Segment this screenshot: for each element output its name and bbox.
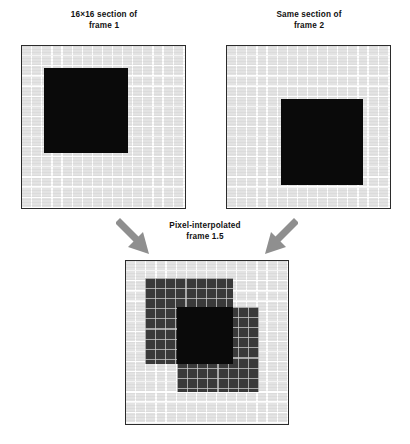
caption-frame-1: 16×16 section of frame 1: [36, 10, 172, 31]
solid-black-square-frame-1: [44, 68, 128, 153]
panel-frame-2: [226, 45, 391, 209]
panel-frame-1: [21, 45, 186, 209]
panel-interpolated-frame: [125, 260, 289, 425]
caption-frame-2: Same section of frame 2: [241, 10, 377, 31]
arrow-from-frame-1-icon: [116, 216, 162, 260]
overlap-region-square: [177, 307, 233, 364]
caption-interpolated-frame: Pixel-interpolated frame 1.5: [148, 221, 262, 242]
arrow-from-frame-2-icon: [252, 216, 298, 260]
solid-black-square-frame-2: [281, 99, 363, 185]
